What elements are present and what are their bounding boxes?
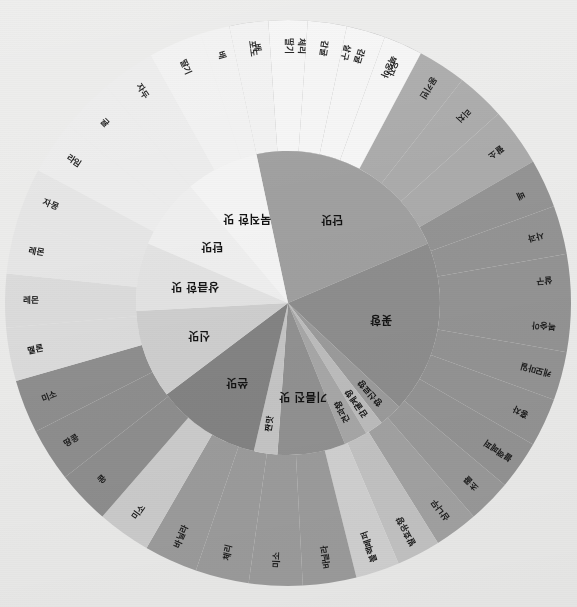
outer-ring-label: 살구 <box>535 275 552 287</box>
outer-ring-label: 감귤 <box>318 40 331 57</box>
inner-ring-label: 상큼한 맛 <box>171 280 219 294</box>
flavor-wheel-figure: 배체리살구복숭아몽키빈리치팔소배사과살구복숭아캐모마일홍차블랙페퍼초콜삼나무발효… <box>0 0 577 607</box>
outer-ring-label: 복숭아 <box>531 320 556 333</box>
inner-ring-label: 묵직한 맛 <box>223 212 271 226</box>
inner-ring-label: 꽃향 <box>370 313 392 327</box>
inner-ring-label: 쓴맛 <box>226 376 248 390</box>
inner-ring-label: 신맛 <box>188 329 210 343</box>
inner-ring-label: 기름진 맛 <box>279 390 327 404</box>
outer-ring-label: 딸기 <box>284 38 295 54</box>
outer-ring-label: 레몬 <box>23 294 39 305</box>
outer-ring-label: 미소 <box>270 551 282 567</box>
inner-ring-label: 탄맛 <box>201 240 223 254</box>
flavor-wheel-svg: 배체리살구복숭아몽키빈리치팔소배사과살구복숭아캐모마일홍차블랙페퍼초콜삼나무발효… <box>0 0 577 607</box>
inner-ring-label: 단맛 <box>321 213 343 227</box>
inner-ring-segments <box>136 151 440 455</box>
outer-ring-label: 체리 <box>297 38 309 55</box>
